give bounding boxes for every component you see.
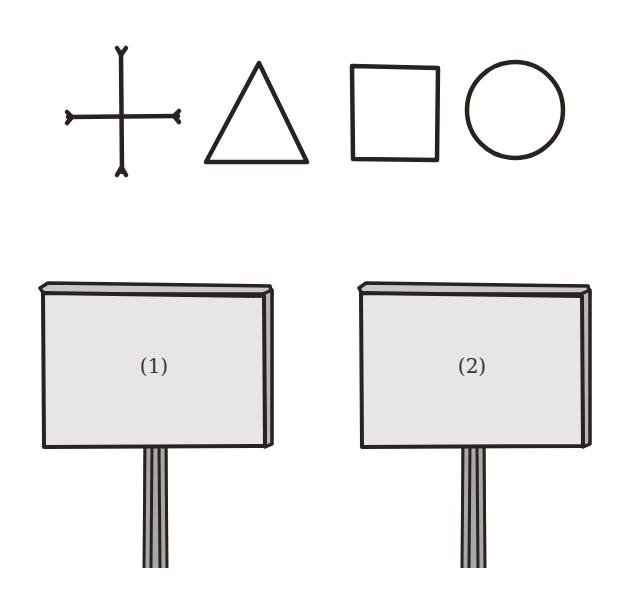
signboard-1: (1) — [40, 283, 272, 568]
signboard-2-label: (2) — [458, 354, 486, 378]
circle-shape-icon — [467, 62, 563, 158]
signboard-1-post — [143, 446, 168, 568]
illustration: (1) (2) — [0, 0, 632, 605]
signboard-1-label: (1) — [140, 354, 168, 378]
square-shape-icon — [352, 66, 438, 160]
cross-shape-icon — [67, 48, 179, 175]
signboard-2-post — [461, 446, 486, 568]
signboard-2: (2) — [359, 283, 590, 568]
triangle-shape-icon — [206, 63, 307, 162]
